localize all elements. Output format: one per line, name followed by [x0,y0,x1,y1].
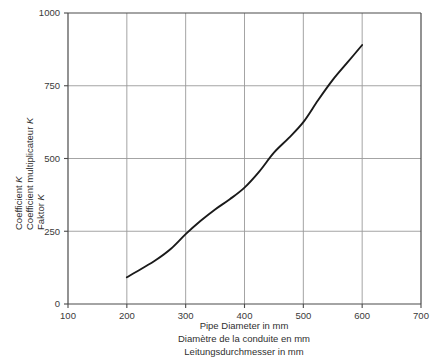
tick-label-x-500: 500 [295,310,311,321]
chart-canvas: 02505007501000 100200300400500600700 Coe… [0,0,433,361]
tick-label-x-700: 700 [413,310,429,321]
tick-label-x-300: 300 [178,310,194,321]
x-axis-caption-line-3: Leitungsdurchmesser in mm [184,346,303,357]
x-axis-caption-line-2: Diamètre de la conduite en mm [178,333,310,344]
tick-label-x-200: 200 [119,310,135,321]
tick-label-y-250: 250 [44,226,60,237]
tick-label-y-0: 0 [55,298,60,309]
tick-label-y-1000: 1000 [39,7,60,18]
tick-label-x-600: 600 [354,310,370,321]
tick-label-y-750: 750 [44,80,60,91]
tick-label-y-500: 500 [44,153,60,164]
x-axis-caption-line-1: Pipe Diameter in mm [200,320,289,331]
y-axis-caption-line-2: Coefficient multiplicateur K [24,117,35,230]
chart-figure: 02505007501000 100200300400500600700 Coe… [0,0,433,361]
y-axis-caption-line-3: Faktor K [35,193,46,230]
tick-label-x-100: 100 [60,310,76,321]
y-axis-caption-line-1: Coefficient K [13,176,24,230]
